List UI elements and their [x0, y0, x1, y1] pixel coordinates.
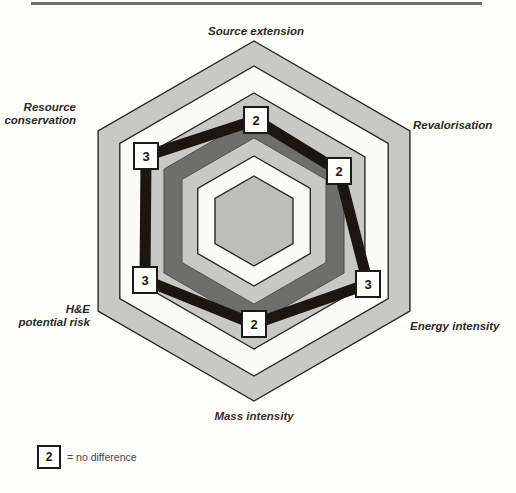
svg-text:3: 3: [364, 277, 371, 292]
svg-text:3: 3: [141, 273, 148, 288]
legend-symbol: 2: [37, 445, 61, 469]
axis-label-energy-intensity: Energy intensity: [410, 320, 499, 333]
axis-label-source-extension: Source extension: [196, 25, 316, 38]
axis-label-he-risk-line2: potential risk: [0, 316, 90, 329]
data-point-marker: 2: [244, 107, 268, 133]
data-point-marker: 3: [134, 143, 158, 169]
legend: 2 = no difference: [37, 445, 137, 469]
axis-label-resource-conservation: Resource conservation: [0, 101, 76, 127]
svg-text:2: 2: [335, 164, 342, 179]
axis-label-he-risk: H&E potential risk: [0, 303, 90, 329]
data-point-marker: 3: [133, 267, 157, 293]
axis-label-resource-line2: conservation: [0, 114, 76, 127]
svg-text:3: 3: [142, 149, 149, 164]
axis-label-mass-intensity: Mass intensity: [194, 410, 314, 423]
axis-label-revalorisation: Revalorisation: [413, 119, 492, 132]
data-point-marker: 3: [356, 271, 380, 297]
data-point-marker: 2: [242, 311, 266, 337]
axis-label-resource-line1: Resource: [0, 101, 76, 114]
axis-label-he-risk-line1: H&E: [0, 303, 90, 316]
data-point-marker: 2: [327, 158, 351, 184]
legend-text: = no difference: [67, 451, 137, 463]
svg-text:2: 2: [250, 317, 257, 332]
svg-text:2: 2: [252, 113, 259, 128]
